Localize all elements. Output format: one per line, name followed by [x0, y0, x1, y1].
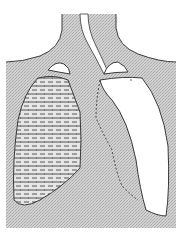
chest-diagram	[0, 0, 182, 233]
right-lung-marker	[130, 79, 132, 81]
chest-diagram-svg	[0, 0, 182, 233]
